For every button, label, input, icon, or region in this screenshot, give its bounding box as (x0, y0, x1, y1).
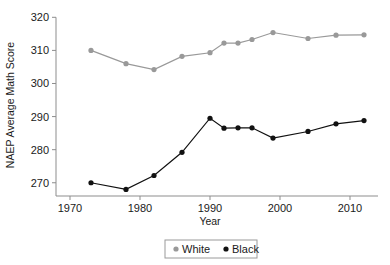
naep-math-score-line-chart: 270280290300310320 19701980199020002010 … (0, 0, 390, 265)
y-tick-label: 280 (31, 144, 49, 156)
data-point[interactable] (305, 36, 310, 41)
data-point[interactable] (151, 67, 156, 72)
data-point[interactable] (270, 30, 275, 35)
y-tick-label: 310 (31, 44, 49, 56)
y-tick-label: 300 (31, 77, 49, 89)
plot-background (0, 0, 390, 265)
x-tick-label: 2000 (268, 202, 292, 214)
data-point[interactable] (123, 61, 128, 66)
data-point[interactable] (361, 32, 366, 37)
data-point[interactable] (235, 125, 240, 130)
x-tick-label: 1990 (198, 202, 222, 214)
chart-container: 270280290300310320 19701980199020002010 … (0, 0, 390, 265)
x-tick-label: 2010 (338, 202, 362, 214)
legend-label: White (182, 243, 210, 255)
data-point[interactable] (207, 116, 212, 121)
data-point[interactable] (249, 37, 254, 42)
data-point[interactable] (221, 126, 226, 131)
data-point[interactable] (333, 121, 338, 126)
data-point[interactable] (123, 187, 128, 192)
data-point[interactable] (207, 50, 212, 55)
data-point[interactable] (221, 41, 226, 46)
y-axis-title: NAEP Average Math Score (4, 42, 16, 168)
data-point[interactable] (179, 150, 184, 155)
data-point[interactable] (235, 41, 240, 46)
legend-marker-icon (223, 246, 228, 251)
y-tick-label: 270 (31, 177, 49, 189)
x-tick-label: 1970 (58, 202, 82, 214)
legend-marker-icon (173, 246, 178, 251)
data-point[interactable] (88, 180, 93, 185)
legend-label: Black (232, 243, 259, 255)
data-point[interactable] (305, 129, 310, 134)
data-point[interactable] (88, 48, 93, 53)
data-point[interactable] (249, 125, 254, 130)
data-point[interactable] (151, 173, 156, 178)
chart-legend[interactable]: WhiteBlack (165, 240, 259, 258)
data-point[interactable] (270, 135, 275, 140)
data-point[interactable] (179, 54, 184, 59)
x-axis-title: Year (199, 215, 221, 227)
y-tick-label: 290 (31, 111, 49, 123)
y-tick-label: 320 (31, 11, 49, 23)
x-tick-label: 1980 (128, 202, 152, 214)
data-point[interactable] (361, 118, 366, 123)
data-point[interactable] (333, 33, 338, 38)
